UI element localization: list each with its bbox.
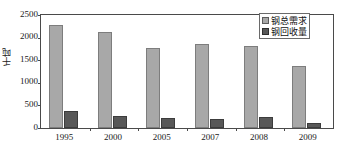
x-axis-tick-mark: [138, 128, 139, 131]
y-axis-tick-labels: 05001000150020002500: [14, 9, 38, 133]
y-axis-tick-label: 0: [14, 123, 38, 132]
x-axis-tick-mark: [187, 128, 188, 131]
y-axis-tick-label: 1500: [14, 55, 38, 64]
bar: [195, 44, 209, 128]
x-axis-tick-label: 2008: [250, 132, 268, 143]
x-axis-tick-label: 2009: [299, 132, 317, 143]
bar: [292, 66, 306, 128]
bar: [244, 46, 258, 128]
x-axis-tick-labels: 199520002005200720082009: [40, 132, 334, 146]
y-axis-tick-label: 2500: [14, 10, 38, 19]
x-axis-tick-label: 2007: [201, 132, 219, 143]
bar: [210, 119, 224, 128]
bar-chart: 千吨 05001000150020002500 1995200020052007…: [0, 0, 341, 157]
x-axis-tick-mark: [284, 128, 285, 131]
x-axis-tick-label: 2000: [104, 132, 122, 143]
bar: [161, 118, 175, 128]
y-axis-tick-mark: [38, 38, 41, 39]
y-axis-tick-mark: [38, 15, 41, 16]
bar: [259, 117, 273, 128]
y-axis-tick-label: 1000: [14, 77, 38, 86]
legend-item: 钢总需求: [262, 15, 307, 26]
chart-legend: 钢总需求钢回收量: [259, 13, 310, 39]
y-axis-tick-mark: [38, 105, 41, 106]
y-axis-tick-mark: [38, 128, 41, 129]
legend-swatch-icon: [262, 28, 269, 35]
bar: [307, 123, 321, 128]
x-axis-tick-mark: [236, 128, 237, 131]
legend-label: 钢回收量: [271, 27, 307, 37]
legend-item: 钢回收量: [262, 26, 307, 37]
y-axis-tick-label: 500: [14, 100, 38, 109]
bar: [146, 48, 160, 128]
bar: [64, 111, 78, 128]
bar: [98, 32, 112, 128]
x-axis-tick-mark: [90, 128, 91, 131]
y-axis-tick-mark: [38, 83, 41, 84]
bar: [113, 116, 127, 128]
legend-label: 钢总需求: [271, 16, 307, 26]
y-axis-tick-mark: [38, 60, 41, 61]
y-axis-title: 千吨: [1, 48, 15, 66]
legend-swatch-icon: [262, 17, 269, 24]
x-axis-tick-label: 2005: [153, 132, 171, 143]
bar: [49, 25, 63, 128]
y-axis-tick-label: 2000: [14, 32, 38, 41]
x-axis-tick-label: 1995: [55, 132, 73, 143]
